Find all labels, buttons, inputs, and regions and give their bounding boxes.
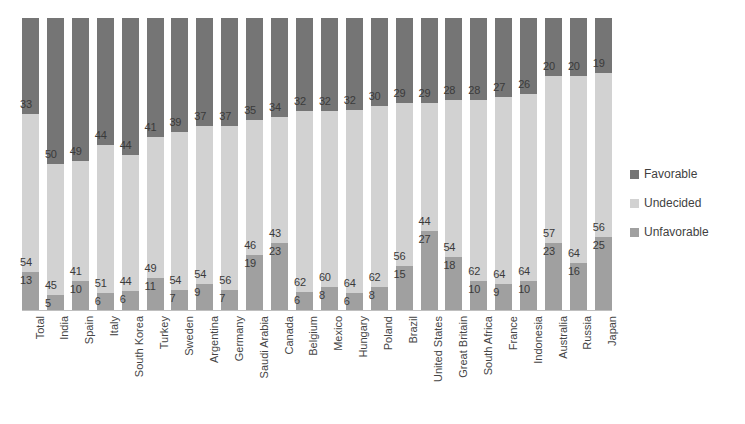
legend-item-label: Unfavorable [644,226,709,238]
bar-segment-favorable: 41 [147,18,164,137]
bar-value-label: 33 [20,99,32,110]
x-axis-tick-label: Great Britain [445,312,462,420]
x-axis-tick-label: France [495,312,512,420]
bar-segment-favorable: 34 [271,18,288,117]
x-axis-tick-label: United States [421,312,438,420]
bar-value-label: 32 [294,96,306,107]
bar-value-label: 30 [369,91,381,102]
bar-value-label: 37 [219,111,231,122]
bar-value-label: 62 [468,266,480,277]
bar-value-label: 64 [568,248,580,259]
bar-value-label: 11 [145,281,156,292]
bar-column: 414911 [147,18,164,310]
x-axis-tick-label: South Africa [470,312,487,420]
bar-value-label: 6 [95,296,101,307]
bar-value-label: 34 [269,102,281,113]
legend-item[interactable]: Undecided [630,197,740,209]
bar-column: 295615 [396,18,413,310]
bar-value-label: 41 [70,266,82,277]
x-axis-tick-label: Japan [595,312,612,420]
bar-value-label: 10 [70,284,82,295]
bar-value-label: 64 [518,266,530,277]
legend-swatch-icon [630,170,639,179]
bar-value-label: 51 [95,278,107,289]
bar-column: 32626 [296,18,313,310]
bar-segment-favorable: 29 [396,18,413,103]
bar-column: 205723 [545,18,562,310]
bar-value-label: 8 [319,290,325,301]
bar-segment-undecided: 56 [221,126,238,290]
bar-value-label: 54 [194,269,206,280]
bar-segment-favorable: 37 [221,18,238,126]
bar-segment-undecided: 49 [147,137,164,279]
bar-segment-favorable: 44 [97,18,114,145]
bar-value-label: 49 [70,146,82,157]
x-axis-tick-label: Australia [545,312,562,420]
bar-value-label: 9 [493,287,499,298]
bar-column: 335413 [22,18,39,310]
bar-segment-undecided: 54 [196,126,213,284]
bar-value-label: 37 [194,111,206,122]
bar-segment-favorable: 32 [321,18,338,111]
x-axis-tick-label: Canada [271,312,288,420]
x-axis-tick-label: Poland [371,312,388,420]
bar-value-label: 6 [344,296,350,307]
bar-segment-undecided: 51 [97,145,114,292]
bar-segment-undecided: 43 [271,117,288,243]
bar-value-label: 7 [219,293,225,304]
bar-value-label: 44 [419,216,431,227]
bar-value-label: 8 [369,290,375,301]
x-axis-tick-label: Indonesia [520,312,537,420]
bar-segment-favorable: 32 [346,18,363,110]
bar-value-label: 39 [169,117,181,128]
x-axis-tick-label: Brazil [396,312,413,420]
bar-segment-favorable: 49 [72,18,89,161]
bar-column: 27649 [495,18,512,310]
bar-segment-favorable: 29 [421,18,438,103]
bar-value-label: 26 [518,79,530,90]
bar-segment-favorable: 20 [545,18,562,76]
bar-column: 494110 [72,18,89,310]
bar-column: 30628 [371,18,388,310]
bar-value-label: 44 [120,140,132,151]
bar-segment-favorable: 27 [495,18,512,97]
bar-column: 266410 [520,18,537,310]
bar-segment-undecided: 45 [47,164,64,295]
bar-value-label: 44 [120,276,132,287]
bar-segment-favorable: 28 [445,18,462,100]
bar-value-label: 64 [493,269,505,280]
legend-swatch-icon [630,228,639,237]
bar-segment-undecided: 64 [495,97,512,284]
bar-value-label: 15 [394,269,406,280]
bar-value-label: 16 [568,266,580,277]
bar-column: 32646 [346,18,363,310]
bar-value-label: 25 [593,240,605,251]
legend-item[interactable]: Unfavorable [630,226,740,238]
bar-value-label: 28 [443,85,455,96]
bar-column: 37549 [196,18,213,310]
bar-value-label: 7 [169,293,175,304]
x-axis-tick-label: Spain [72,312,89,420]
bar-value-label: 20 [543,61,555,72]
x-axis-tick-label: South Korea [122,312,139,420]
bar-segment-undecided: 64 [520,94,537,281]
bar-segment-favorable: 19 [595,18,612,73]
bar-value-label: 19 [244,258,256,269]
bar-value-label: 62 [369,272,381,283]
bar-value-label: 54 [443,242,455,253]
bar-value-label: 56 [219,275,231,286]
bar-value-label: 60 [319,272,331,283]
bar-segment-favorable: 32 [296,18,313,111]
bar-segment-favorable: 20 [570,18,587,76]
bar-segment-undecided: 62 [296,111,313,292]
bar-value-label: 50 [45,149,57,160]
bar-segment-undecided: 60 [321,111,338,286]
legend-item[interactable]: Favorable [630,168,740,180]
bar-value-label: 27 [419,234,431,245]
bar-value-label: 19 [593,58,605,69]
bar-value-label: 45 [45,280,57,291]
x-axis-tick-label: India [47,312,64,420]
x-axis-tick-label: Argentina [196,312,213,420]
bar-segment-undecided: 62 [371,106,388,287]
bar-value-label: 49 [145,263,157,274]
